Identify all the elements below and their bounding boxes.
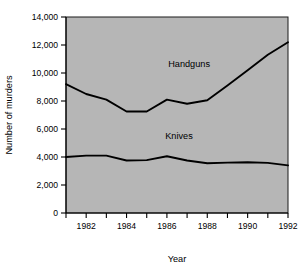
x-tick-label-1984: 1984 <box>117 221 136 231</box>
series-label-knives: Knives <box>165 131 193 141</box>
y-axis-ticks <box>61 17 66 213</box>
y-tick-label-6000: 6,000 <box>36 124 58 134</box>
x-axis-title: Year <box>168 254 187 264</box>
y-tick-label-2000: 2,000 <box>36 180 58 190</box>
series-label-handguns: Handguns <box>168 59 210 69</box>
x-tick-label-1982: 1982 <box>77 221 96 231</box>
x-tick-label-1988: 1988 <box>198 221 217 231</box>
y-tick-label-0: 0 <box>53 208 58 218</box>
x-tick-label-1990: 1990 <box>238 221 257 231</box>
y-axis: 02,0004,0006,0008,00010,00012,00014,000 <box>32 12 66 218</box>
y-axis-tick-labels: 02,0004,0006,0008,00010,00012,00014,000 <box>32 12 59 218</box>
y-tick-label-10000: 10,000 <box>32 68 59 78</box>
chart-canvas: 02,0004,0006,0008,00010,00012,00014,000 … <box>0 0 306 271</box>
y-axis-title: Number of murders <box>4 75 14 155</box>
y-tick-label-14000: 14,000 <box>32 12 59 22</box>
x-tick-label-1992: 1992 <box>278 221 297 231</box>
y-tick-label-12000: 12,000 <box>32 40 59 50</box>
line-chart: 02,0004,0006,0008,00010,00012,00014,000 … <box>0 0 306 271</box>
x-axis-tick-labels: 198219841986198819901992 <box>77 221 298 231</box>
x-tick-label-1986: 1986 <box>157 221 176 231</box>
y-tick-label-4000: 4,000 <box>36 152 58 162</box>
plot-area-background <box>66 17 288 213</box>
x-axis: 198219841986198819901992 <box>66 213 298 231</box>
x-axis-ticks <box>66 213 288 218</box>
y-tick-label-8000: 8,000 <box>36 96 58 106</box>
